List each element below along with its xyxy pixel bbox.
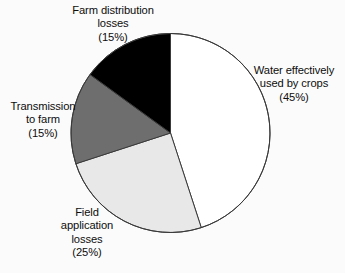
slice-label-water-effectively-used-by-crops: Water effectively used by crops (45%) bbox=[244, 64, 344, 104]
slice-label-percent: (15%) bbox=[52, 31, 174, 44]
slice-label-farm-distribution-losses: Farm distribution losses (15%) bbox=[52, 4, 174, 44]
slice-label-line: to farm bbox=[2, 113, 84, 126]
slice-label-percent: (25%) bbox=[44, 246, 130, 259]
slice-label-line: Water effectively bbox=[244, 64, 344, 77]
slice-label-line: Field bbox=[44, 206, 130, 219]
slice-label-line: Transmission bbox=[2, 100, 84, 113]
slice-label-line: losses bbox=[52, 17, 174, 30]
slice-label-percent: (45%) bbox=[244, 91, 344, 104]
slice-label-line: Farm distribution bbox=[52, 4, 174, 17]
pie-chart-figure: Farm distribution losses (15%) Water eff… bbox=[0, 0, 345, 273]
slice-label-transmission-to-farm: Transmission to farm (15%) bbox=[2, 100, 84, 140]
pie-slice-group bbox=[71, 34, 270, 233]
slice-label-percent: (15%) bbox=[2, 127, 84, 140]
slice-label-line: losses bbox=[44, 233, 130, 246]
slice-label-line: application bbox=[44, 219, 130, 232]
slice-label-line: used by crops bbox=[244, 77, 344, 90]
slice-label-field-application-losses: Field application losses (25%) bbox=[44, 206, 130, 260]
